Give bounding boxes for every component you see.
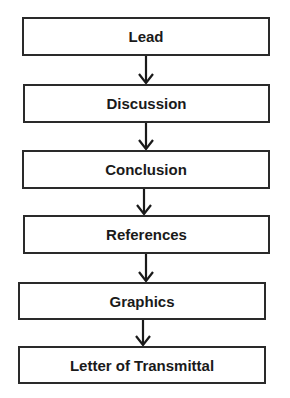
step-label: Conclusion xyxy=(105,161,187,178)
step-label: Letter of Transmittal xyxy=(70,357,214,374)
arrow-down-icon xyxy=(136,254,156,282)
step-label: Lead xyxy=(128,28,163,45)
step-graphics: Graphics xyxy=(18,282,266,320)
arrow-down-icon xyxy=(136,123,156,150)
step-conclusion: Conclusion xyxy=(22,150,270,189)
step-label: Graphics xyxy=(109,293,174,310)
step-lead: Lead xyxy=(22,17,270,56)
arrow-down-icon xyxy=(136,56,156,84)
step-discussion: Discussion xyxy=(23,84,270,123)
step-label: Discussion xyxy=(106,95,186,112)
step-references: References xyxy=(23,215,270,254)
step-label: References xyxy=(106,226,187,243)
arrow-down-icon xyxy=(134,189,154,215)
arrow-down-icon xyxy=(133,320,153,346)
step-letter-of-transmittal: Letter of Transmittal xyxy=(18,346,266,384)
